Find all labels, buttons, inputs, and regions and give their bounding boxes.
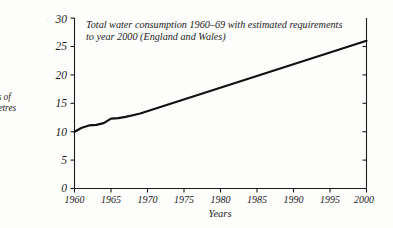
chart-title-line-2: to year 2000 (England and Wales) (86, 31, 226, 43)
right-axis-ticks (363, 47, 367, 161)
y-tick-label: 15 (56, 97, 68, 109)
y-tick-label: 20 (56, 69, 68, 81)
x-tick-label: 1995 (320, 194, 340, 205)
chart-title-line-1: Total water consumption 1960–69 with est… (86, 19, 342, 30)
y-axis-ticks (71, 18, 75, 188)
x-axis-title: Years (209, 208, 232, 219)
y-tick-label: 10 (56, 126, 68, 138)
x-tick-label: 1975 (174, 194, 194, 205)
x-axis-ticks (75, 189, 367, 193)
x-tick-label: 1960 (65, 194, 85, 205)
x-tick-label: 1985 (247, 194, 267, 205)
x-tick-label: 1990 (284, 194, 304, 205)
line-chart: 0 5 10 15 20 25 30 1960 1965 1970 1975 1… (0, 0, 393, 228)
x-tick-label: 1980 (211, 194, 231, 205)
y-tick-label: 25 (56, 40, 68, 52)
y-tick-label: 5 (61, 154, 67, 166)
data-series-line (75, 41, 367, 132)
x-axis-tick-labels: 1960 1965 1970 1975 1980 1985 1990 1995 … (65, 194, 375, 205)
water-consumption-chart-figure: 0 5 10 15 20 25 30 1960 1965 1970 1975 1… (0, 0, 393, 228)
y-axis-title: illions of bic metres r day (0, 92, 52, 124)
y-axis-tick-labels: 0 5 10 15 20 25 30 (55, 13, 68, 195)
y-tick-label: 30 (55, 13, 68, 25)
y-tick-label: 0 (61, 182, 67, 194)
x-tick-label: 1970 (138, 194, 158, 205)
x-tick-label: 1965 (101, 194, 121, 205)
x-tick-label: 2000 (354, 194, 374, 205)
